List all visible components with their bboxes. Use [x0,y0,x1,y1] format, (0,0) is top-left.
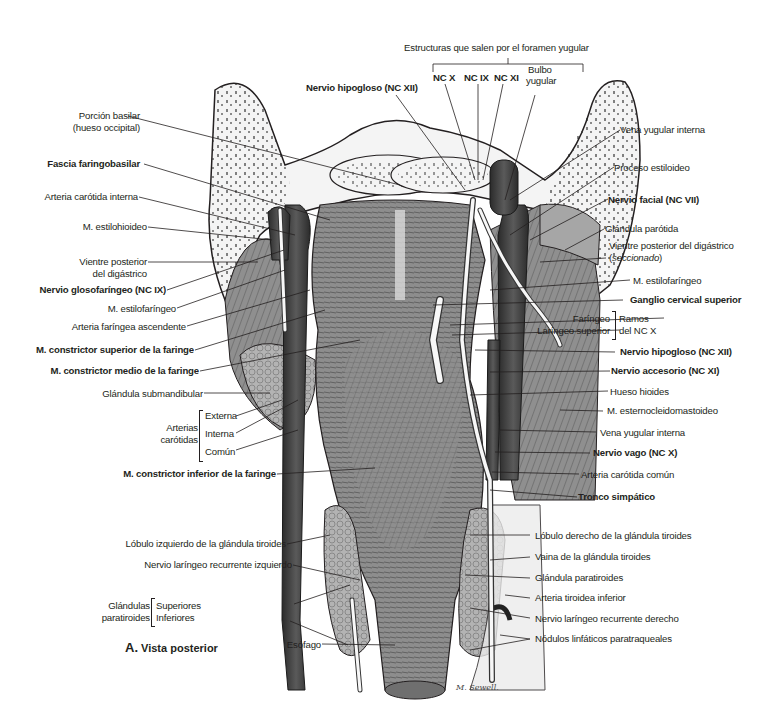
label-m-constrictor-inferior: M. constrictor inferior de la faringe [123,468,276,479]
label-comun: Común [205,446,235,457]
label-proceso-estiloideo: Proceso estiloideo [614,162,690,173]
label-arterias: Arterias [166,422,198,433]
label-externa: Externa [205,410,237,421]
label-nervio-facial: Nervio facial (NC VII) [608,194,699,205]
label-carotidas: carótidas [160,434,198,445]
label-paratiroides: paratiroides [102,612,150,623]
label-ganglio-cervical-superior: Ganglio cervical superior [630,294,741,305]
label-nervio-accesorio: Nervio accesorio (NC XI) [611,365,719,376]
label-glandula-submandibular: Glándula submandibular [102,388,203,399]
label-bulbo-yugular-2: yugular [526,75,556,86]
label-arteria-faringea-ascendente: Arteria faríngea ascendente [72,321,186,332]
label-nervio-hipogloso-right: Nervio hipogloso (NC XII) [620,346,732,357]
label-glandula-parotida: Glándula parótida [605,223,678,234]
label-laringeo-superior: Laríngeo superior [537,325,610,336]
label-superiores: Superiores [156,600,201,611]
label-del-nc-x: del NC X [619,325,656,336]
bracket-paratiroides [151,598,155,627]
label-arteria-carotida-comun: Arteria carótida común [581,469,674,480]
label-lobulo-derecho: Lóbulo derecho de la glándula tiroides [535,530,691,541]
label-nervio-laringeo-derecho: Nervio laríngeo recurrente derecho [535,613,679,624]
anatomy-figure: Estructuras que salen por el foramen yug… [0,0,773,714]
label-vena-yugular-interna-low: Vena yugular interna [600,427,685,438]
label-nervio-glosofaringeo: Nervio glosofaríngeo (NC IX) [40,284,166,295]
label-nervio-laringeo-izquierdo: Nervio laríngeo recurrente izquierdo [144,559,292,570]
figure-caption: A. Vista posterior [125,640,218,655]
label-fascia-faringobasilar: Fascia faringobasilar [47,158,140,169]
label-hueso-occipital: (hueso occipital) [73,122,140,133]
label-m-esternocleidomastoideo: M. esternocleidomastoideo [607,405,718,416]
label-glandula-paratiroides-right: Glándula paratiroides [535,572,623,583]
label-nodulos-linfaticos: Nódulos linfáticos paratraqueales [535,633,672,644]
label-del-digastrico: del digástrico [93,268,147,279]
label-porcion-basilar: Porción basilar [79,110,140,121]
label-nervio-hipogloso-top: Nervio hipogloso (NC XII) [306,82,418,93]
label-interna: Interna [205,428,234,439]
label-vientre-posterior: Vientre posterior [79,256,147,267]
label-m-estilofaringeo-right: M. estilofaríngeo [633,275,701,286]
label-nc-xi-top: NC XI [494,72,519,83]
label-esofago: Esófago [287,639,321,650]
label-m-estilofaringeo-left: M. estilofaríngeo [108,303,176,314]
label-vientre-posterior-digastrico: Vientre posterior del digástrico [609,240,734,251]
label-m-constrictor-superior: M. constrictor superior de la faringe [36,344,194,355]
label-lobulo-izquierdo: Lóbulo izquierdo de la glándula tiroides [126,538,286,549]
label-nc-x-top: NC X [433,72,455,83]
label-inferiores: Inferiores [156,612,195,623]
label-nervio-vago: Nervio vago (NC X) [593,447,677,458]
label-vaina-glandula: Vaina de la glándula tiroides [535,551,650,562]
caption-text: Vista posterior [141,642,218,654]
label-faringeo: Faríngeo [573,313,610,324]
label-arteria-carotida-interna: Arteria carótida interna [45,191,138,202]
label-ramos: Ramos [619,313,649,324]
label-vena-yugular-interna-top: Vena yugular interna [620,124,705,135]
label-seccionado: (seccionado) [609,252,662,263]
label-m-estilohioideo: M. estilohioideo [83,221,147,232]
bracket-arterias [199,410,203,462]
label-hueso-hioides: Hueso hioides [610,386,669,397]
label-bulbo-yugular-1: Bulbo [528,64,552,75]
artist-signature: M. Sewell. [456,683,499,692]
label-tronco-simpatico: Tronco simpático [578,491,655,502]
label-m-constrictor-medio: M. constrictor medio de la faringe [51,365,199,376]
caption-letter: A. [125,640,138,655]
label-nc-ix-top: NC IX [464,72,489,83]
label-arteria-tiroidea-inferior: Arteria tiroidea inferior [535,592,626,603]
foramen-yugular-title: Estructuras que salen por el foramen yug… [404,42,589,53]
bracket-ramos [612,311,616,340]
label-glandulas: Glándulas [108,600,150,611]
